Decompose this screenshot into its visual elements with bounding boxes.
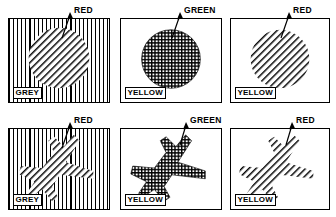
background-label-top-left: GREY — [13, 87, 42, 99]
panel-bottom-center: YELLOW — [120, 128, 222, 210]
callout-label-bottom-right: RED — [296, 116, 315, 125]
background-label-bottom-center: YELLOW — [125, 194, 166, 206]
panel-bottom-left: GREY — [8, 128, 110, 210]
panel-top-left: GREY — [8, 18, 110, 103]
background-label-top-right: YELLOW — [235, 87, 276, 99]
callout-label-top-right: RED — [293, 6, 312, 15]
panel-top-right: YELLOW — [230, 18, 330, 103]
background-label-bottom-left: GREY — [13, 194, 42, 206]
background-label-top-center: YELLOW — [125, 87, 166, 99]
callout-label-top-left: RED — [74, 6, 93, 15]
callout-label-top-center: GREEN — [184, 6, 216, 15]
panel-top-center: YELLOW — [120, 18, 222, 103]
panel-bottom-right: YELLOW — [230, 128, 330, 210]
background-label-bottom-right: YELLOW — [235, 194, 276, 206]
callout-label-bottom-center: GREEN — [190, 116, 222, 125]
stimulus-figure: GREY RED YELLOW GREEN — [0, 0, 336, 217]
callout-label-bottom-left: RED — [74, 116, 93, 125]
